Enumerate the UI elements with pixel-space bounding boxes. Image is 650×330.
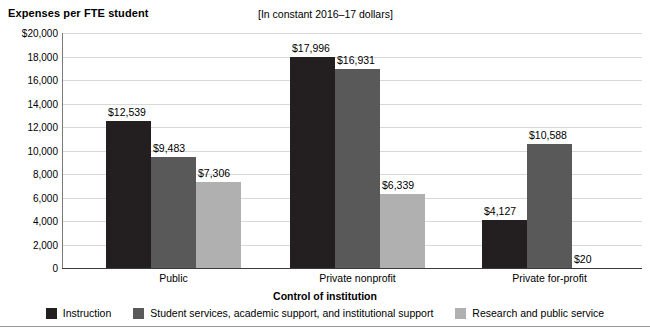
legend-swatch [46, 308, 57, 319]
legend-item[interactable]: Instruction [46, 307, 111, 319]
legend-label: Research and public service [472, 307, 604, 319]
x-axis-line [62, 268, 642, 269]
bar [380, 194, 425, 268]
x-axis-group-label: Public [106, 272, 241, 284]
bar [151, 157, 196, 268]
y-axis-tick-label: 2,000 [0, 239, 58, 250]
bar-value-label: $16,931 [337, 54, 375, 66]
bar [290, 57, 335, 268]
y-axis-tick-label: 4,000 [0, 216, 58, 227]
bar-value-label: $10,588 [529, 129, 567, 141]
y-axis-tick-label: 8,000 [0, 169, 58, 180]
bar-value-label: $20 [574, 253, 592, 265]
y-axis-tick-label: 14,000 [0, 98, 58, 109]
y-axis-tick-label: $20,000 [0, 28, 58, 39]
bar-value-label: $6,339 [382, 179, 414, 191]
bar [482, 220, 527, 268]
bar-value-label: $17,996 [292, 42, 330, 54]
bar-value-label: $4,127 [484, 205, 516, 217]
bar [196, 182, 241, 268]
y-axis-tick-label: 10,000 [0, 145, 58, 156]
bottom-rule [0, 326, 650, 327]
legend-swatch [455, 308, 466, 319]
bar-value-label: $7,306 [198, 167, 230, 179]
y-axis-tick-label: 6,000 [0, 192, 58, 203]
bar-value-label: $9,483 [153, 142, 185, 154]
legend-swatch [133, 308, 144, 319]
y-axis-line [62, 33, 63, 269]
bar [335, 69, 380, 268]
legend: InstructionStudent services, academic su… [0, 307, 650, 319]
y-axis-tick-label: 12,000 [0, 122, 58, 133]
bar [106, 121, 151, 268]
legend-label: Student services, academic support, and … [150, 307, 433, 319]
units-note: [In constant 2016–17 dollars] [258, 8, 393, 20]
x-axis-group-label: Private for-profit [482, 272, 617, 284]
x-axis-group-label: Private nonprofit [290, 272, 425, 284]
y-axis-tick-label: 16,000 [0, 75, 58, 86]
y-axis-tick-labels: $20,00018,00016,00014,00012,00010,0008,0… [0, 0, 58, 330]
y-axis-tick-label: 18,000 [0, 51, 58, 62]
x-axis-title: Control of institution [0, 290, 650, 302]
bar-value-label: $12,539 [108, 106, 146, 118]
gridline [62, 33, 642, 34]
plot-area: $12,539$9,483$7,306$17,996$16,931$6,339$… [62, 33, 642, 268]
legend-item[interactable]: Student services, academic support, and … [133, 307, 433, 319]
legend-item[interactable]: Research and public service [455, 307, 604, 319]
bar [527, 144, 572, 268]
y-axis-tick-label: 0 [0, 263, 58, 274]
legend-label: Instruction [63, 307, 111, 319]
